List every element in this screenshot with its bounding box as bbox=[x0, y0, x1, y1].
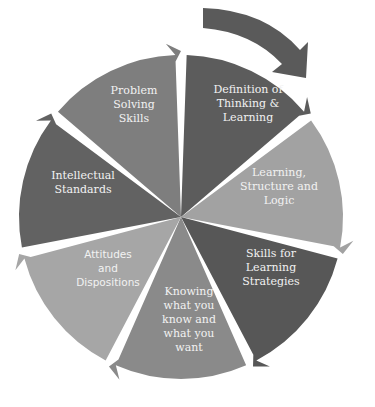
segment-label-definition: Definition ofThinking &Learning bbox=[213, 83, 283, 124]
segment-label-standards: IntellectualStandards bbox=[51, 169, 115, 196]
cycle-diagram: Definition ofThinking &LearningLearning,… bbox=[0, 0, 375, 407]
segment-label-strategies: Skills forLearningStrategies bbox=[242, 247, 300, 288]
